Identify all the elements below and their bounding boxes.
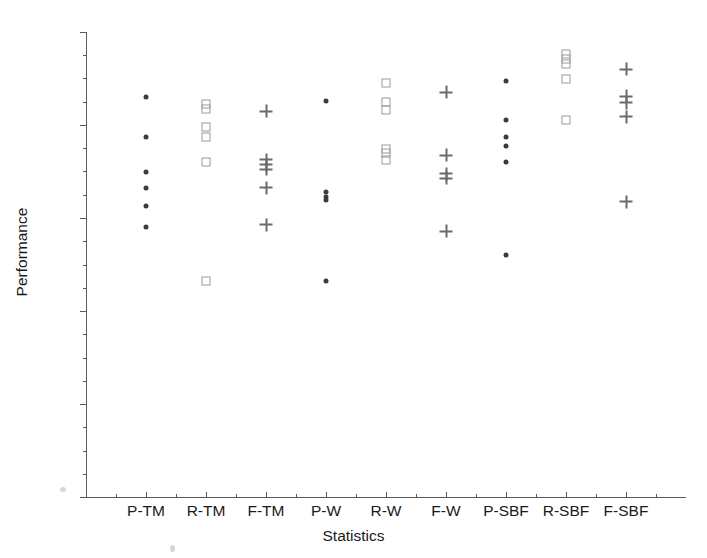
data-point-square — [562, 59, 571, 68]
data-point-square — [382, 106, 391, 115]
y-tick-minor — [83, 148, 87, 149]
data-point-dot — [144, 95, 149, 100]
data-point-plus — [260, 181, 273, 194]
data-point-plus — [440, 86, 453, 99]
x-tick-major — [146, 492, 147, 498]
y-tick-minor — [83, 288, 87, 289]
x-tick-major — [326, 492, 327, 498]
y-tick-minor — [83, 102, 87, 103]
data-point-plus — [620, 63, 633, 76]
data-point-dot — [504, 143, 509, 148]
data-point-plus — [440, 172, 453, 185]
data-point-plus — [620, 110, 633, 123]
x-tick-major — [566, 492, 567, 498]
data-point-square — [202, 132, 211, 141]
x-tick-label-f-w: F-W — [431, 502, 460, 520]
data-point-plus — [260, 163, 273, 176]
y-tick-minor — [83, 451, 87, 452]
x-tick-major — [626, 492, 627, 498]
data-point-plus — [440, 149, 453, 162]
y-tick-minor — [83, 474, 87, 475]
x-tick-label-f-sbf: F-SBF — [604, 502, 649, 520]
data-point-dot — [144, 204, 149, 209]
data-point-dot — [144, 185, 149, 190]
data-point-plus — [260, 218, 273, 231]
scatter-plot-figure: 00.20.40.60.81 P-TMR-TMF-TMP-WR-WF-WP-SB… — [0, 0, 707, 558]
data-point-square — [562, 74, 571, 83]
data-point-dot — [324, 278, 329, 283]
x-tick-minor — [476, 494, 477, 498]
x-tick-minor — [656, 494, 657, 498]
y-tick-minor — [83, 265, 87, 266]
x-tick-minor — [236, 494, 237, 498]
x-tick-label-r-sbf: R-SBF — [543, 502, 590, 520]
data-point-dot — [504, 134, 509, 139]
x-tick-minor — [596, 494, 597, 498]
x-tick-minor — [116, 494, 117, 498]
x-tick-major — [386, 492, 387, 498]
y-tick-major — [80, 218, 87, 219]
x-tick-label-r-tm: R-TM — [187, 502, 226, 520]
x-tick-minor — [356, 494, 357, 498]
data-point-square — [202, 276, 211, 285]
y-tick-minor — [83, 78, 87, 79]
x-tick-label-p-tm: P-TM — [127, 502, 165, 520]
data-point-dot — [504, 253, 509, 258]
y-tick-major — [80, 125, 87, 126]
y-tick-minor — [83, 55, 87, 56]
x-tick-major — [446, 492, 447, 498]
y-tick-minor — [83, 241, 87, 242]
y-tick-major — [80, 404, 87, 405]
x-tick-major — [206, 492, 207, 498]
x-tick-major — [506, 492, 507, 498]
scan-artifact-speck — [170, 545, 175, 552]
data-point-square — [382, 155, 391, 164]
y-tick-major — [80, 311, 87, 312]
data-point-square — [202, 104, 211, 113]
x-tick-label-f-tm: F-TM — [247, 502, 284, 520]
data-point-plus — [620, 195, 633, 208]
data-point-square — [562, 116, 571, 125]
x-tick-label-p-w: P-W — [311, 502, 341, 520]
data-point-plus — [440, 225, 453, 238]
data-point-square — [382, 79, 391, 88]
data-point-square — [202, 123, 211, 132]
x-tick-label-p-sbf: P-SBF — [483, 502, 529, 520]
data-point-dot — [504, 118, 509, 123]
data-point-plus — [260, 105, 273, 118]
data-point-dot — [324, 98, 329, 103]
y-axis-title: Performance — [13, 152, 31, 352]
x-tick-minor — [536, 494, 537, 498]
x-tick-minor — [416, 494, 417, 498]
data-point-dot — [504, 78, 509, 83]
data-point-dot — [144, 225, 149, 230]
data-point-dot — [324, 198, 329, 203]
data-point-dot — [144, 134, 149, 139]
y-tick-minor — [83, 358, 87, 359]
data-point-plus — [620, 96, 633, 109]
x-axis-title: Statistics — [0, 527, 707, 545]
y-tick-minor — [83, 427, 87, 428]
y-tick-minor — [83, 195, 87, 196]
scan-artifact-speck — [60, 487, 66, 492]
data-point-square — [202, 158, 211, 167]
y-tick-major — [80, 497, 87, 498]
x-tick-minor — [176, 494, 177, 498]
data-point-dot — [144, 169, 149, 174]
y-tick-minor — [83, 171, 87, 172]
y-tick-major — [80, 32, 87, 33]
y-tick-minor — [83, 334, 87, 335]
x-tick-major — [266, 492, 267, 498]
x-tick-minor — [296, 494, 297, 498]
y-tick-minor — [83, 381, 87, 382]
x-tick-label-r-w: R-W — [371, 502, 402, 520]
data-point-dot — [504, 160, 509, 165]
